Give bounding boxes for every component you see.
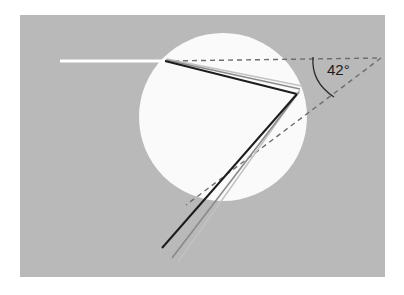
figure-canvas: 42°	[0, 0, 404, 295]
angle-label-42-degrees: 42°	[327, 62, 350, 77]
ray-diagram-svg	[0, 0, 404, 295]
water-droplet-circle	[139, 33, 307, 201]
